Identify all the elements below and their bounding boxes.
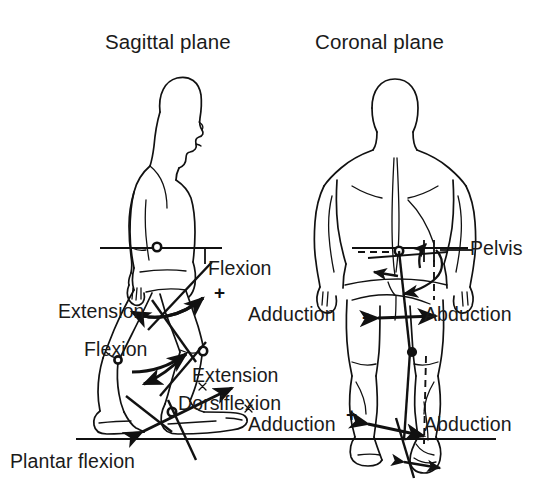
label-flexion-hip: Flexion — [208, 259, 272, 279]
label-adduction-hip: Adduction — [248, 305, 336, 325]
coronal-femur-axis-line — [399, 251, 410, 352]
sagittal-hip-joint-marker — [153, 243, 161, 251]
plus-sign-adduction-ankle: + — [346, 405, 357, 424]
coronal-plane-title: Coronal plane — [315, 32, 444, 53]
plus-sign-flexion-hip: + — [214, 283, 225, 302]
sagittal-plane-title: Sagittal plane — [105, 32, 231, 53]
label-adduction-ankle: Adduction — [248, 415, 336, 435]
joint-motion-figure: Sagittal plane Coronal plane Flexion + E… — [0, 0, 553, 504]
pelvis-rotation-arrow — [404, 250, 442, 294]
coronal-pelvis-tilt-line — [368, 252, 448, 258]
label-dorsiflexion: Dorsiflexion — [178, 394, 281, 414]
label-plantar-flexion: Plantar flexion — [10, 452, 135, 472]
ankle-adduction-abduction-arrow — [368, 424, 424, 436]
plus-sign-adduction-hip: + — [362, 308, 373, 327]
coronal-tibia-axis-line — [404, 352, 410, 440]
label-abduction-hip: Abduction — [424, 305, 512, 325]
label-extension-knee: Extension — [192, 366, 279, 386]
hip-axis-line — [148, 262, 212, 330]
label-extension-hip: Extension — [58, 302, 145, 322]
label-flexion-knee: Flexion — [84, 340, 148, 360]
label-pelvis: Pelvis — [470, 239, 523, 259]
label-abduction-ankle: Abduction — [424, 415, 512, 435]
